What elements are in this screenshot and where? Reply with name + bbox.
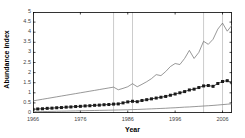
- series-marker: [207, 84, 210, 87]
- series-marker: [159, 96, 162, 99]
- series-marker: [33, 108, 35, 111]
- series-marker: [126, 100, 129, 103]
- series-marker: [231, 81, 233, 84]
- series-marker: [226, 79, 229, 82]
- series-marker: [145, 98, 148, 101]
- series-marker: [79, 105, 82, 108]
- x-tick-label: 1986: [122, 117, 134, 123]
- x-tick-label: 1976: [74, 117, 86, 123]
- x-axis-title: Year: [33, 126, 232, 133]
- series-marker: [164, 95, 167, 98]
- series-marker: [155, 97, 158, 100]
- plot-area: [33, 12, 232, 113]
- series-marker: [41, 107, 44, 110]
- series-marker: [140, 99, 143, 102]
- series-marker: [221, 80, 224, 83]
- series-marker: [212, 85, 215, 88]
- series-marker: [197, 86, 200, 89]
- series-marker: [178, 91, 181, 94]
- series-marker: [84, 104, 87, 107]
- x-tick-label: 1966: [27, 117, 39, 123]
- x-tick-label: 1996: [169, 117, 181, 123]
- series-marker: [131, 100, 134, 103]
- series-marker: [117, 102, 120, 105]
- series-marker: [93, 104, 96, 107]
- series-marker: [202, 84, 205, 87]
- plot-svg: [33, 12, 232, 113]
- series-marker: [188, 88, 191, 91]
- series-marker: [46, 107, 49, 110]
- x-tick-label: 2006: [216, 117, 228, 123]
- series-marker: [136, 100, 139, 103]
- series-marker: [55, 106, 58, 109]
- series-marker: [216, 82, 219, 85]
- series-marker: [60, 106, 63, 109]
- series-marker: [150, 97, 153, 100]
- series-marker: [193, 88, 196, 91]
- series-marker: [103, 103, 106, 106]
- chart-figure: Abundance index 00.511.522.533.544.55 19…: [0, 0, 245, 138]
- series-marker: [169, 94, 172, 97]
- series-marker: [122, 101, 125, 104]
- series-marker: [107, 103, 110, 106]
- series-marker: [74, 105, 77, 108]
- series-marker: [36, 107, 39, 110]
- series-marker: [112, 103, 115, 106]
- series-marker: [88, 104, 91, 107]
- series-marker: [65, 106, 68, 109]
- series-marker: [174, 93, 177, 96]
- series-marker: [69, 105, 72, 108]
- series-marker: [50, 107, 53, 110]
- series-marker: [183, 90, 186, 93]
- series-marker: [98, 104, 101, 107]
